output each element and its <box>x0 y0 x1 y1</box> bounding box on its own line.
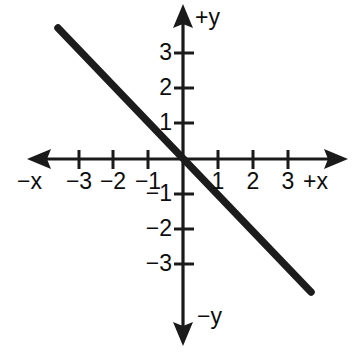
y-tick-label-2: 2 <box>130 76 172 99</box>
y-tick-label--2: −2 <box>122 217 172 240</box>
x-tick-label-1: 1 <box>205 170 231 193</box>
x-tick-label-2: 2 <box>240 170 266 193</box>
y-tick-label--3: −3 <box>122 252 172 275</box>
y-tick-label-3: 3 <box>130 41 172 64</box>
x-tick-label--3: −3 <box>62 170 96 193</box>
coordinate-graph-figure: +y −y −x +x −3 −2 −1 1 2 3 3 2 1 −1 −2 −… <box>0 0 363 356</box>
x-tick-label-3: 3 <box>275 170 301 193</box>
y-tick-label--1: −1 <box>122 182 172 205</box>
y-axis-positive-label: +y <box>195 6 220 29</box>
x-axis-positive-label: +x <box>303 170 328 193</box>
y-tick-label-1: 1 <box>130 111 172 134</box>
x-axis-negative-label: −x <box>17 170 42 193</box>
y-axis-negative-label: −y <box>197 305 222 328</box>
